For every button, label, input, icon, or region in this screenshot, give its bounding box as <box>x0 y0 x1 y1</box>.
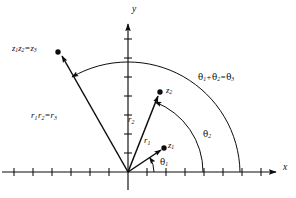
angle-theta2-label: θ2 <box>203 130 211 139</box>
vector-z2 <box>128 96 158 172</box>
complex-plane-figure: x y z1z2=z3 z2 z1 r1 r2=r3 r2 r1 θ1 θ2 θ… <box>0 0 296 198</box>
point-z2-label: z2 <box>166 86 172 95</box>
z3-eq-c-sub: 3 <box>34 47 37 53</box>
r-eq-a-sub: 1 <box>34 115 37 121</box>
point-z3-label: z1z2=z3 <box>12 44 37 53</box>
diagram-canvas <box>0 0 296 198</box>
theta1-sub: 1 <box>165 161 168 167</box>
point-z1 <box>161 145 166 150</box>
x-axis <box>2 168 276 176</box>
magnitude-r2-label: r2 <box>128 115 134 124</box>
point-z3 <box>55 49 60 54</box>
z2-sub: 2 <box>169 89 172 95</box>
vector-z3 <box>62 56 128 172</box>
theta-eq-a-sub: 1 <box>203 76 206 82</box>
point-z1-label: z1 <box>168 141 174 150</box>
x-axis-label: x <box>283 163 287 173</box>
point-z2 <box>157 89 162 94</box>
z3-eq-a-sub: 1 <box>15 47 18 53</box>
r2-sub: 2 <box>131 119 134 125</box>
magnitude-r1-label: r1 <box>144 136 150 145</box>
angle-sum-label: θ1+θ2=θ3 <box>198 73 234 82</box>
magnitude-product-label: r1 r2=r3 <box>31 111 57 120</box>
theta-eq-b-sub: 2 <box>217 76 220 82</box>
z1-sub: 1 <box>171 144 174 150</box>
angle-arc-theta1 <box>150 157 154 172</box>
angle-theta1-label: θ1 <box>160 158 168 167</box>
r1-sub: 1 <box>147 140 150 146</box>
r-eq-c-sub: 3 <box>54 115 57 121</box>
theta-eq-c-sub: 3 <box>231 76 234 82</box>
z3-eq-b-sub: 2 <box>22 47 25 53</box>
y-axis-label: y <box>132 5 136 15</box>
theta2-sub: 2 <box>208 133 211 139</box>
